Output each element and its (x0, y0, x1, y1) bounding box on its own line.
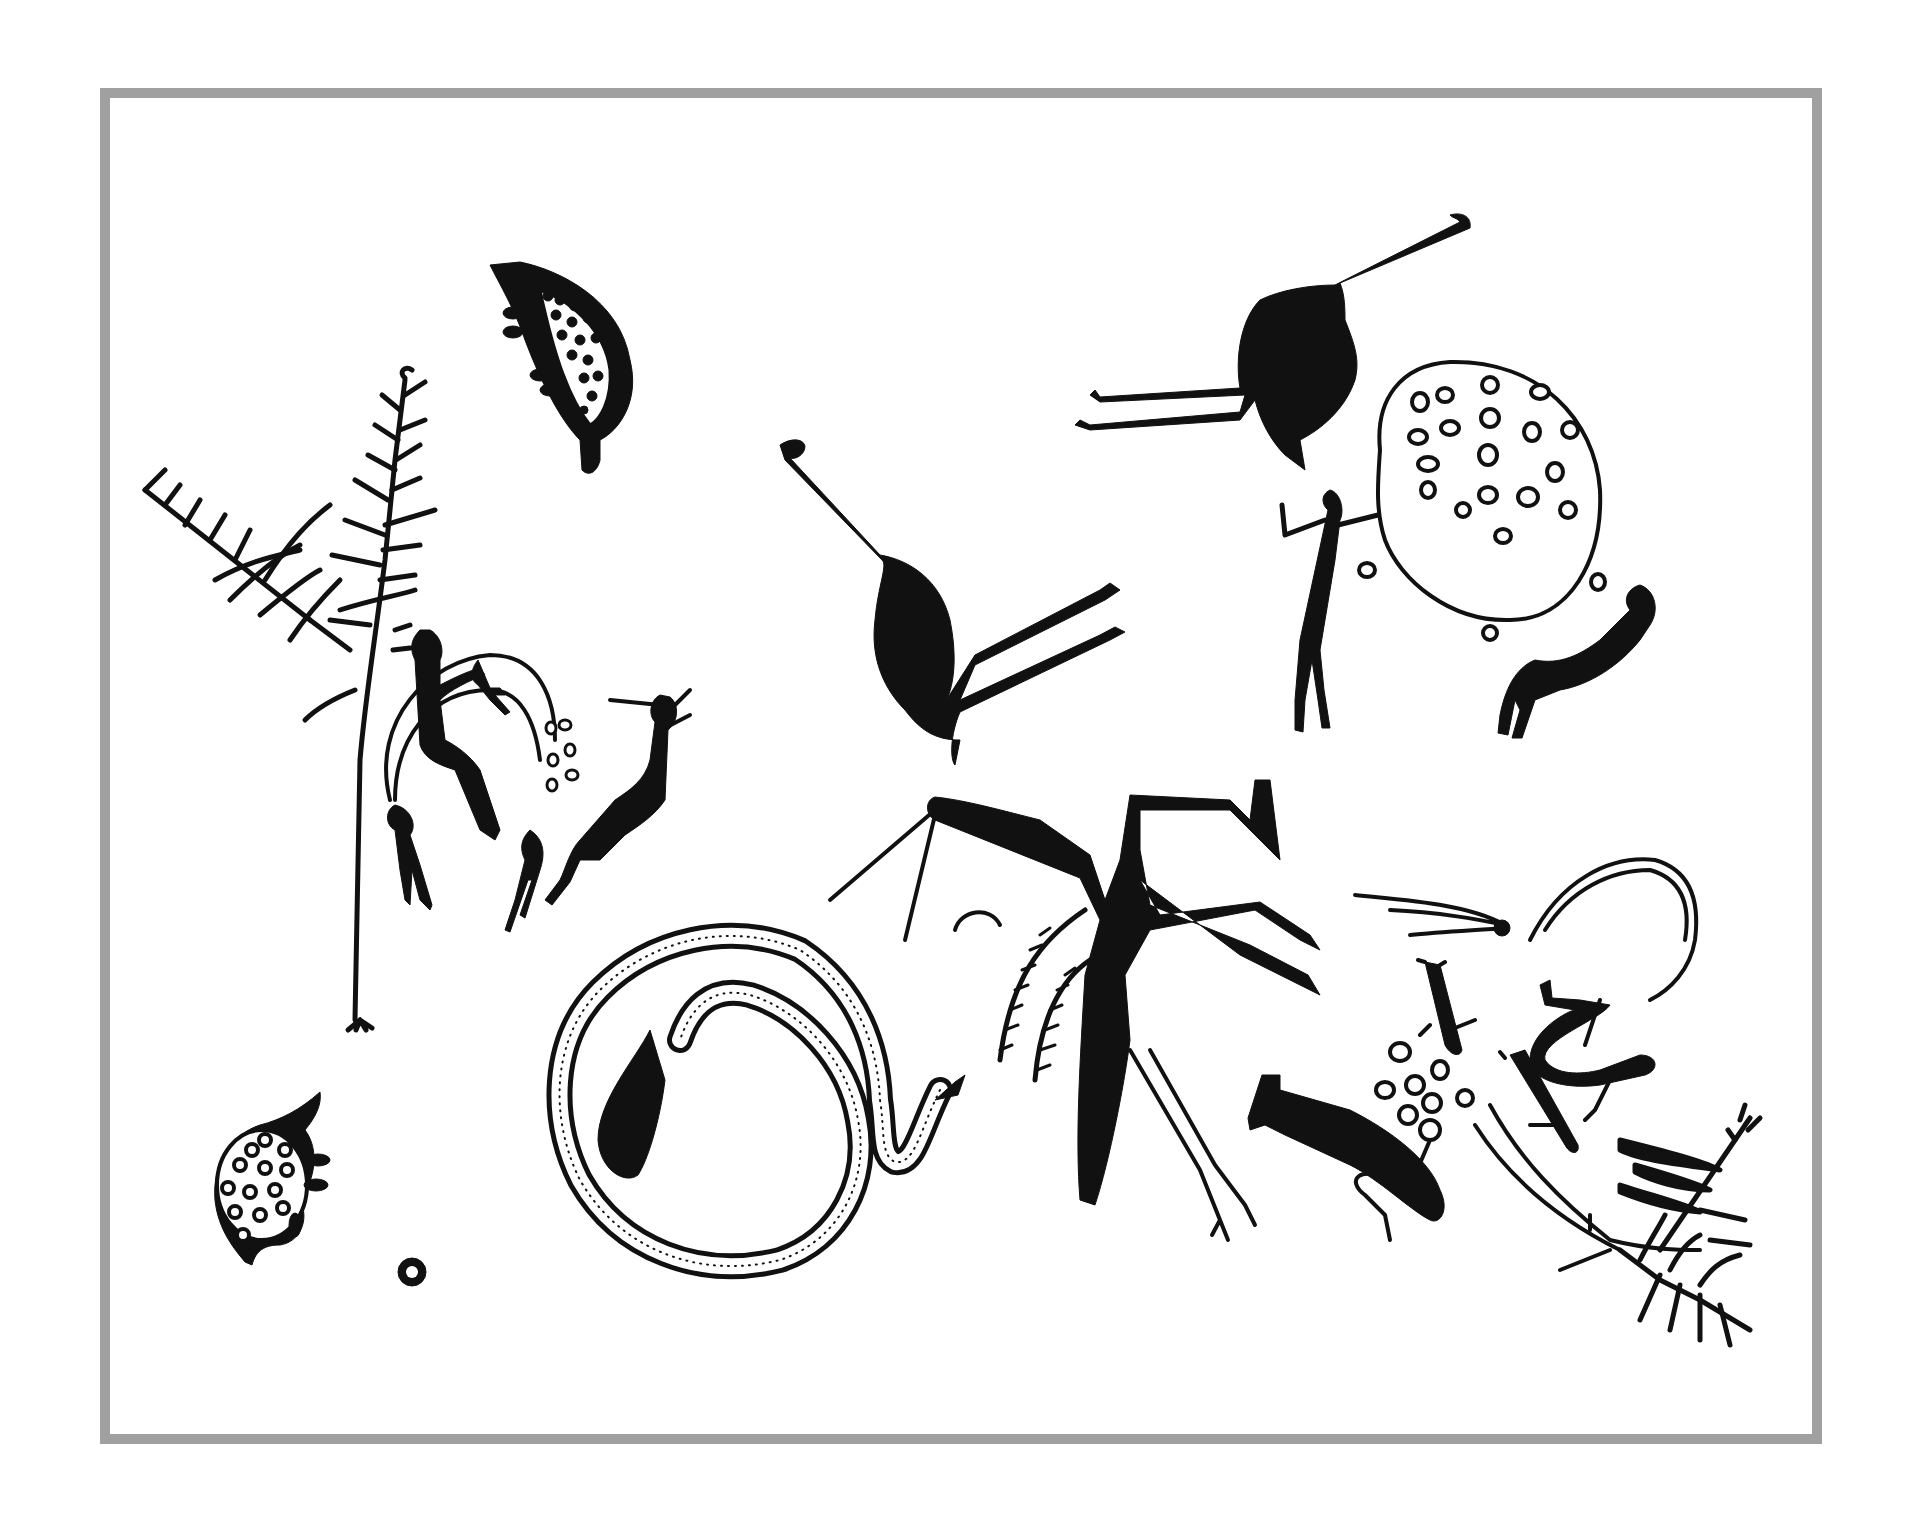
lower-right-figures (1248, 859, 1700, 1270)
standing-figure-icon (1282, 490, 1378, 732)
fern-branch-right-icon (1620, 1105, 1760, 1345)
small-circle-icon (398, 1258, 426, 1286)
turtle-bottom-icon (215, 1092, 330, 1265)
tree-left-icon (145, 368, 435, 1030)
coiled-snake-icon (560, 936, 965, 1266)
seated-figures-in-shelter (386, 630, 690, 932)
emu-center-icon (780, 440, 1125, 765)
turtle-top-icon (490, 262, 633, 473)
dotted-circle-icon (1359, 362, 1605, 640)
rock-art-illustration (0, 0, 1913, 1517)
leaning-figure-icon (1498, 585, 1655, 738)
